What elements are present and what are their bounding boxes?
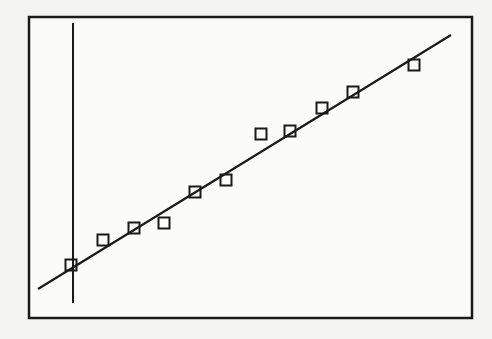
chart-canvas <box>0 0 492 339</box>
scatter-chart <box>0 0 492 339</box>
